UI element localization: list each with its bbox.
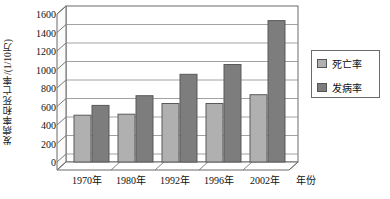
x-tick-1996: 1996年 xyxy=(204,172,234,187)
chart-legend: 死亡率 发病率 xyxy=(311,50,380,98)
plot-area xyxy=(0,0,390,199)
x-tick-1970: 1970年 xyxy=(72,172,102,187)
bar-1970-incidence xyxy=(92,105,109,162)
legend-label-incidence: 发病率 xyxy=(332,80,362,95)
bar-2002-incidence xyxy=(268,21,285,162)
bar-1996-incidence xyxy=(224,65,241,163)
bar-1970-mortality xyxy=(74,115,91,162)
x-tick-2002: 2002年 xyxy=(250,172,280,187)
plot-floor xyxy=(57,162,298,170)
plot-left-wall xyxy=(57,6,66,170)
bar-2002-mortality xyxy=(250,95,267,162)
bar-1996-mortality xyxy=(206,104,223,163)
legend-swatch-incidence xyxy=(317,83,327,92)
bar-chart: 发病率和死亡率/(1/10万) 1600 1400 1200 1000 800 … xyxy=(0,0,390,199)
bar-1980-mortality xyxy=(118,114,135,162)
legend-swatch-mortality xyxy=(317,59,327,68)
bar-1992-mortality xyxy=(162,104,179,163)
bar-1980-incidence xyxy=(136,96,153,162)
legend-item-mortality: 死亡率 xyxy=(312,51,379,75)
bar-1992-incidence xyxy=(180,74,197,162)
legend-item-incidence: 发病率 xyxy=(312,75,379,99)
x-axis-title: 年份 xyxy=(296,172,316,187)
x-tick-1980: 1980年 xyxy=(116,172,146,187)
legend-label-mortality: 死亡率 xyxy=(332,56,362,71)
x-tick-1992: 1992年 xyxy=(160,172,190,187)
